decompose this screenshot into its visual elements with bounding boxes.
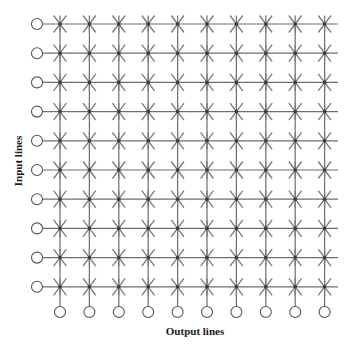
output-lines-label: Output lines (166, 325, 224, 337)
crosspoint-dot (293, 256, 297, 260)
crosspoint-dot (264, 168, 268, 172)
output-terminal-circle (231, 307, 242, 318)
crosspoint-dot (88, 227, 92, 231)
crosspoint-dot (88, 256, 92, 260)
crosspoint-dot (146, 168, 150, 172)
output-terminal-circle (172, 307, 183, 318)
output-terminal-circle (113, 307, 124, 318)
output-terminal-circle (290, 307, 301, 318)
crosspoint-dot (205, 51, 209, 55)
crosspoint-dot (88, 22, 92, 26)
crosspoint-dot (176, 168, 180, 172)
crosspoint-dot (205, 110, 209, 114)
input-terminal-circle (32, 106, 43, 117)
crosspoint-dot (205, 256, 209, 260)
crosspoint-dot (205, 22, 209, 26)
crosspoint-dot (264, 51, 268, 55)
crosspoint-dot (58, 81, 62, 85)
crosspoint-dot (117, 168, 121, 172)
crosspoint-dot (117, 51, 121, 55)
crosspoint-dot (176, 81, 180, 85)
crosspoint-dot (235, 285, 239, 289)
crosspoint-dot (323, 227, 327, 231)
crosspoint-dot (176, 285, 180, 289)
crosspoint-dot (117, 197, 121, 201)
input-terminal-circle (32, 19, 43, 30)
input-terminals (32, 19, 43, 293)
crosspoint-dot (235, 81, 239, 85)
crosspoint-dot (293, 81, 297, 85)
crosspoint-dot (264, 110, 268, 114)
crosspoint-dot (88, 197, 92, 201)
crosspoint-dot (176, 22, 180, 26)
input-terminal-circle (32, 223, 43, 234)
crosspoint-dot (205, 168, 209, 172)
crosspoint-dot (117, 81, 121, 85)
crosspoint-dot (88, 51, 92, 55)
grid-lines (43, 24, 339, 307)
output-terminal-circle (143, 307, 154, 318)
input-terminal-circle (32, 77, 43, 88)
crosspoint-dot (117, 285, 121, 289)
crosspoint-dot (58, 227, 62, 231)
crosspoint-dot (176, 227, 180, 231)
input-terminal-circle (32, 281, 43, 292)
crosspoint-dot (58, 168, 62, 172)
input-terminal-circle (32, 48, 43, 59)
crosspoint-dot (264, 256, 268, 260)
crosspoint-dot (146, 197, 150, 201)
crosspoint-dot (205, 139, 209, 143)
crosspoint-dot (293, 285, 297, 289)
crosspoint-dot (235, 256, 239, 260)
crosspoint-dot (323, 256, 327, 260)
crosspoint-dot (58, 256, 62, 260)
output-terminal-circle (202, 307, 213, 318)
crosspoint-dot (146, 139, 150, 143)
input-terminal-circle (32, 135, 43, 146)
output-terminals (55, 307, 331, 318)
crosspoint-dot (205, 81, 209, 85)
crosspoint-dot (176, 256, 180, 260)
crosspoint-dot (293, 22, 297, 26)
crosspoint-dot (293, 110, 297, 114)
crosspoint-dot (205, 197, 209, 201)
crosspoint-dot (58, 22, 62, 26)
output-terminal-circle (84, 307, 95, 318)
input-lines-label: Input lines (12, 136, 24, 186)
output-terminal-circle (55, 307, 66, 318)
input-terminal-circle (32, 252, 43, 263)
crosspoint-dot (58, 51, 62, 55)
input-terminal-circle (32, 194, 43, 205)
crosspoint-dot (117, 256, 121, 260)
crosspoint-dot (146, 22, 150, 26)
crosspoint-dot (176, 197, 180, 201)
crosspoint-dot (235, 227, 239, 231)
crosspoint-dot (293, 227, 297, 231)
crossbar-diagram (0, 0, 352, 348)
crosspoint-dot (146, 110, 150, 114)
crosspoint-dot (117, 227, 121, 231)
crosspoint-dot (235, 51, 239, 55)
crosspoint-dot (146, 81, 150, 85)
crosspoint-dot (146, 227, 150, 231)
crosspoint-dot (323, 110, 327, 114)
crosspoint-dot (235, 197, 239, 201)
input-terminal-circle (32, 165, 43, 176)
output-terminal-circle (319, 307, 330, 318)
crosspoint-dot (235, 139, 239, 143)
crosspoint-dot (235, 168, 239, 172)
crosspoint-dot (323, 285, 327, 289)
output-terminal-circle (260, 307, 271, 318)
crosspoint-dot (88, 81, 92, 85)
crosspoint-dot (58, 139, 62, 143)
crosspoint-dot (293, 197, 297, 201)
crosspoint-dot (88, 110, 92, 114)
crosspoint-dot (205, 285, 209, 289)
crosspoint-dot (58, 110, 62, 114)
crosspoint-dot (235, 110, 239, 114)
crosspoint-dot (88, 139, 92, 143)
crosspoint-dot (88, 285, 92, 289)
crosspoint-dot (176, 51, 180, 55)
crosspoint-dot (205, 227, 209, 231)
crosspoint-dot (264, 197, 268, 201)
